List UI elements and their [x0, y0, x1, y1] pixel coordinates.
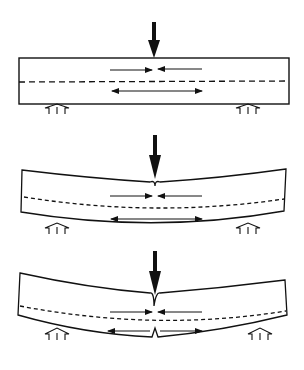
load-arrow-icon [149, 251, 161, 295]
right-support-icon [236, 104, 260, 114]
right-support-icon [236, 223, 260, 234]
load-arrow-icon [148, 22, 160, 58]
neutral-axis [20, 306, 286, 320]
beam-bending-diagram [0, 0, 304, 370]
left-support-icon [45, 328, 69, 340]
neutral-axis [24, 197, 284, 208]
left-support-icon [45, 104, 69, 114]
beam [21, 169, 286, 223]
panel-stage-2 [21, 135, 286, 234]
left-support-icon [45, 223, 69, 234]
neutral-axis [19, 81, 289, 82]
panel-stage-3 [18, 251, 287, 340]
panel-stage-1 [19, 22, 289, 114]
right-support-icon [248, 328, 272, 340]
compression-arrows [110, 69, 202, 70]
load-arrow-icon [149, 135, 161, 179]
